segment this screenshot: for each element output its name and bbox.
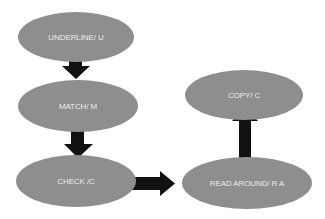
arrow-down-icon (64, 128, 93, 158)
node-read-around: READ AROUND/ R A (182, 157, 312, 209)
node-label: UNDERLINE/ U (48, 33, 103, 42)
node-label: COPY/ C (228, 91, 260, 100)
node-underline: UNDERLINE/ U (18, 12, 134, 62)
arrow-right-icon (132, 171, 175, 196)
node-label: MATCH/ M (59, 102, 97, 111)
node-copy: COPY/ C (185, 70, 303, 120)
node-match: MATCH/ M (18, 80, 138, 132)
node-check: CHECK /C (16, 155, 136, 207)
node-label: CHECK /C (57, 177, 94, 186)
arrow-down-icon (62, 60, 90, 79)
node-label: READ AROUND/ R A (210, 179, 284, 188)
